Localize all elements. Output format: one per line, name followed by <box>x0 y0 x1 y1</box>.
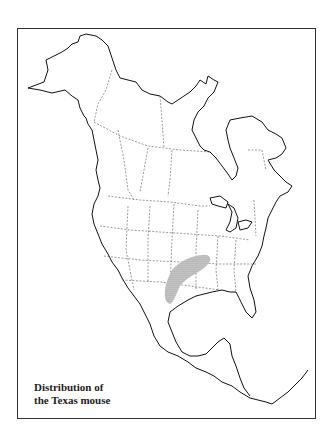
political-borders <box>94 70 266 292</box>
caption-line-2: the Texas mouse <box>34 394 110 407</box>
coastline <box>28 34 308 404</box>
caption-line-1: Distribution of <box>34 381 110 394</box>
map-caption: Distribution of the Texas mouse <box>34 381 110 407</box>
texas-mouse-range <box>165 255 210 304</box>
north-america-map <box>0 0 335 438</box>
